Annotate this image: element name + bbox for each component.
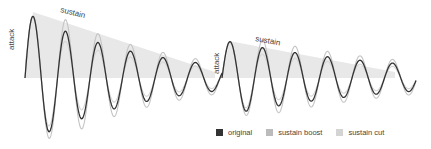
legend-label: original xyxy=(228,128,252,137)
swatch-sustain-cut xyxy=(336,129,343,136)
attack-label-2: attack xyxy=(212,52,221,74)
waveform-plot: attack sustain attack sustain xyxy=(0,0,431,149)
legend-label: sustain boost xyxy=(278,128,322,137)
swatch-sustain-boost xyxy=(266,129,273,136)
attack-label-1: attack xyxy=(7,28,16,50)
sustain-envelope-2 xyxy=(222,41,395,78)
legend-item-original: original xyxy=(216,128,252,137)
sustain-envelope-1 xyxy=(25,12,215,78)
sustain-label-1: sustain xyxy=(60,5,87,20)
swatch-original xyxy=(216,129,223,136)
legend-item-sustain-cut: sustain cut xyxy=(336,128,384,137)
legend: original sustain boost sustain cut xyxy=(216,128,398,137)
sustain-label-2: sustain xyxy=(255,34,282,47)
legend-item-sustain-boost: sustain boost xyxy=(266,128,322,137)
transient-shaper-diagram: attack sustain attack sustain original s… xyxy=(0,0,431,149)
legend-label: sustain cut xyxy=(348,128,384,137)
